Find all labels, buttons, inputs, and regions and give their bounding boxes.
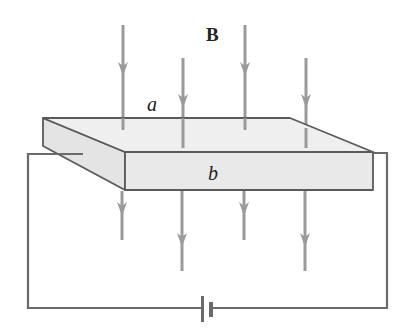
- edge-label-b: b: [208, 162, 218, 184]
- field-arrowheads-below: [117, 202, 310, 247]
- hall-effect-diagram: B a b: [0, 0, 402, 335]
- field-label: B: [206, 24, 219, 45]
- battery-short-plate: [209, 302, 213, 317]
- edge-label-a: a: [147, 93, 157, 115]
- battery-icon: [201, 296, 213, 322]
- slab-front-face: [125, 152, 373, 190]
- field-lines-below: [122, 191, 305, 271]
- battery-long-plate: [201, 296, 204, 322]
